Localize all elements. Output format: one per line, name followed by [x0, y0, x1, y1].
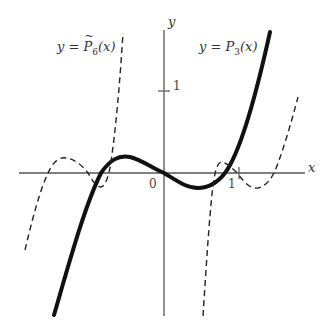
x-tick-label-1: 1: [228, 177, 236, 191]
p6-curve-right: [203, 97, 298, 316]
p6-label-name: P: [84, 39, 93, 54]
p3-label-name: P: [226, 39, 235, 54]
figure: y x 0 1 1 y = P6(x) y = P3(x): [0, 0, 328, 330]
p6-label-prefix: y =: [57, 39, 84, 54]
origin-label: 0: [149, 177, 157, 191]
y-axis-label: y: [168, 14, 175, 29]
x-axis-label: x: [308, 160, 315, 175]
p3-curve-label: y = P3(x): [199, 39, 257, 57]
plot-area: [0, 0, 328, 330]
p3-label-prefix: y =: [199, 39, 226, 54]
p3-label-suffix: (x): [240, 39, 257, 54]
p6-curve-left: [25, 33, 123, 250]
p6-label-suffix: (x): [98, 39, 115, 54]
y-tick-label-1: 1: [173, 79, 181, 93]
p6-curve-label: y = P6(x): [57, 39, 115, 57]
